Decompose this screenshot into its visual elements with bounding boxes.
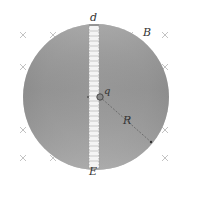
charge-label: q: [104, 86, 110, 96]
diagram: d B q R E: [0, 0, 201, 200]
cross-icon: [162, 155, 168, 161]
charge-icon: [97, 94, 103, 100]
radius-label: R: [123, 115, 131, 126]
cross-icon: [162, 127, 168, 133]
diagram-svg: [0, 0, 201, 200]
cross-icon: [20, 155, 26, 161]
cross-icon: [20, 32, 26, 38]
magnetic-field-label: B: [143, 27, 151, 38]
gap-center-marker: [87, 96, 89, 98]
cross-icon: [162, 32, 168, 38]
gap-width-label: d: [90, 12, 97, 23]
cross-icon: [20, 127, 26, 133]
radius-endpoint: [150, 141, 152, 143]
cross-icon: [20, 64, 26, 70]
electric-field-label: E: [89, 166, 97, 177]
